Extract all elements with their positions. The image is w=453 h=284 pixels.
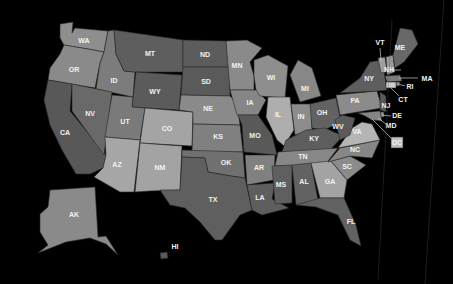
state-label-me: ME (395, 44, 406, 51)
state-label-mt: MT (145, 50, 156, 57)
state-ma[interactable] (385, 75, 402, 82)
state-label-ne: NE (203, 105, 213, 112)
state-label-wy: WY (149, 88, 161, 95)
state-label-wa: WA (78, 37, 89, 44)
state-label-la: LA (255, 194, 264, 201)
state-label-wv: WV (332, 123, 344, 130)
state-label-al: AL (299, 178, 309, 185)
state-label-nd: ND (200, 51, 210, 58)
state-label-or: OR (69, 66, 80, 73)
state-label-ak: AK (69, 211, 79, 218)
state-label-sd: SD (201, 78, 211, 85)
state-label-co: CO (162, 125, 173, 132)
state-label-ga: GA (325, 178, 336, 185)
state-label-ma: MA (422, 75, 433, 82)
state-label-de: DE (392, 112, 402, 119)
state-label-fl: FL (347, 218, 356, 225)
state-label-oh: OH (317, 109, 328, 116)
state-label-ia: IA (247, 99, 254, 106)
us-state-map: WAORCAIDNVMTWYUTCOAZNMNDSDNEKSOKTXMNIAMO… (0, 0, 453, 284)
state-label-il: IL (275, 111, 282, 118)
state-label-va: VA (352, 128, 361, 135)
state-label-nj: NJ (382, 102, 391, 109)
state-label-ut: UT (120, 118, 130, 125)
state-label-nc: NC (350, 146, 360, 153)
state-label-in: IN (298, 113, 305, 120)
state-label-mo: MO (249, 132, 261, 139)
state-label-ok: OK (221, 159, 232, 166)
state-label-mn: MN (232, 62, 243, 69)
state-label-wi: WI (267, 74, 276, 81)
state-label-ri: RI (407, 83, 414, 90)
state-label-ky: KY (309, 135, 319, 142)
state-label-pa: PA (350, 97, 359, 104)
state-label-ct: CT (398, 96, 408, 103)
state-ct[interactable] (386, 82, 396, 88)
state-label-ca: CA (60, 129, 70, 136)
state-label-az: AZ (112, 161, 122, 168)
state-label-nm: NM (155, 164, 166, 171)
state-label-tn: TN (298, 153, 307, 160)
state-label-ny: NY (364, 75, 374, 82)
state-label-md: MD (386, 122, 397, 129)
state-label-ks: KS (213, 133, 223, 140)
state-label-hi: HI (172, 243, 179, 250)
state-label-ar: AR (254, 164, 264, 171)
state-label-nv: NV (85, 110, 95, 117)
state-label-dc: DC (392, 139, 402, 146)
state-label-sc: SC (342, 163, 352, 170)
state-label-ms: MS (276, 181, 287, 188)
state-label-vt: VT (376, 39, 386, 46)
state-hi[interactable] (160, 252, 168, 259)
state-label-tx: TX (209, 196, 218, 203)
state-label-mi: MI (301, 85, 309, 92)
state-label-id: ID (111, 77, 118, 84)
